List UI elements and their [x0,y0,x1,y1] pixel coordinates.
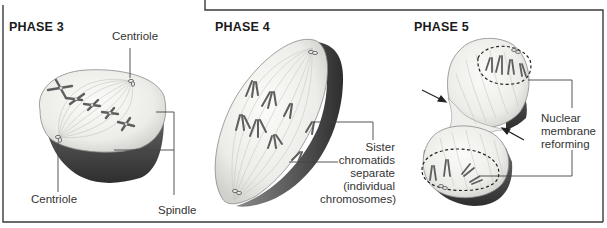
label-centriole-bottom: Centriole [31,193,77,206]
label-nuclear-membrane: Nuclear membrane reforming [541,112,596,151]
label-spindle: Spindle [158,204,196,217]
phase3-title: PHASE 3 [9,20,64,34]
label-sister-line1: Sister [320,141,395,154]
label-sister-line3: separate [320,167,395,180]
label-nuclear-line2: membrane [541,125,596,138]
phase4-title: PHASE 4 [215,20,270,34]
label-sister-chromatids: Sister chromatids separate (individual c… [320,141,395,206]
label-nuclear-line1: Nuclear [541,112,596,125]
label-sister-line5: chromosomes) [320,193,395,206]
diagram-artwork [0,0,607,228]
label-sister-line2: chromatids [320,154,395,167]
label-centriole-top: Centriole [112,30,158,43]
label-sister-line4: (individual [320,180,395,193]
phase5-cell [422,38,531,206]
phase5-title: PHASE 5 [414,20,469,34]
label-nuclear-line3: reforming [541,138,596,151]
mitosis-diagram: PHASE 3 PHASE 4 PHASE 5 Centriole Centri… [0,0,607,228]
